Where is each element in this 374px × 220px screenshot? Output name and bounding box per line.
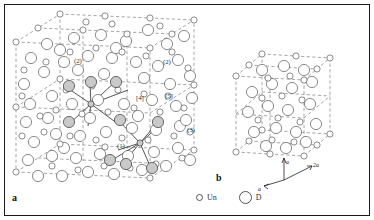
legend-label-d: D bbox=[256, 193, 262, 202]
site-label-3: (3) bbox=[187, 126, 195, 134]
site-label-2-upper: (2) bbox=[74, 57, 82, 65]
axis-label-2a: 2a bbox=[313, 162, 319, 168]
site-label-1: (1) bbox=[117, 142, 125, 150]
site-label-4: [4] bbox=[136, 94, 144, 102]
legend: Un D bbox=[196, 186, 316, 208]
panel-label-b: b bbox=[216, 172, 222, 183]
panel-b-atoms-large bbox=[242, 60, 321, 153]
site-label-2-right: (2) bbox=[163, 58, 171, 66]
small-open-circle-icon bbox=[196, 194, 203, 201]
legend-item-d: D bbox=[239, 191, 262, 204]
axis-label-a-vertical: a bbox=[286, 159, 289, 165]
legend-item-un: Un bbox=[196, 193, 217, 202]
figure-root: (2) (2) [4] [5] (3) (1) a b a a 2a Un D bbox=[0, 0, 374, 220]
site-label-5: [5] bbox=[165, 92, 173, 100]
large-open-circle-icon bbox=[239, 191, 252, 204]
panel-label-a: a bbox=[12, 192, 17, 203]
structure-drawing bbox=[0, 0, 374, 220]
legend-label-un: Un bbox=[207, 193, 217, 202]
